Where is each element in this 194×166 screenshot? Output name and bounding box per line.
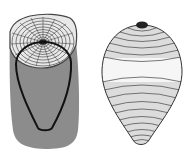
log-illustration [10, 14, 79, 149]
ovoid-cap [136, 22, 148, 29]
ovoid-illustration [100, 22, 185, 145]
diagram-figure: Tree log cross-section showing growth ri… [0, 0, 194, 166]
